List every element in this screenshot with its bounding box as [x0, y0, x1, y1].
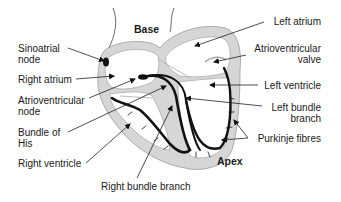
av-node-shape	[138, 74, 148, 80]
sa-node-shape	[103, 58, 109, 67]
label-purkinje-fibres: Purkinje fibres	[258, 133, 321, 144]
label-right-ventricle: Right ventricle	[18, 158, 81, 169]
label-left-atrium: Left atrium	[274, 16, 321, 27]
pointer-right-ventricle	[86, 124, 130, 163]
label-atrioventricular-valve: Atrioventricular valve	[254, 43, 321, 65]
label-left-bundle-branch: Left bundle branch	[272, 102, 322, 124]
label-left-ventricle: Left ventricle	[264, 80, 321, 91]
label-sinoatrial-node: Sinoatrial node	[18, 43, 60, 65]
label-base: Base	[134, 24, 159, 35]
label-bundle-of-his: Bundle of His	[18, 127, 60, 149]
heart-conduction-diagram: Base Apex Sinoatrial node Right atrium A…	[0, 0, 341, 202]
label-apex: Apex	[217, 156, 243, 167]
pointer-sinoatrial-node	[68, 48, 104, 61]
label-right-bundle-branch: Right bundle branch	[101, 181, 191, 192]
label-atrioventricular-node: Atrioventricular node	[18, 95, 85, 117]
label-right-atrium: Right atrium	[18, 74, 72, 85]
